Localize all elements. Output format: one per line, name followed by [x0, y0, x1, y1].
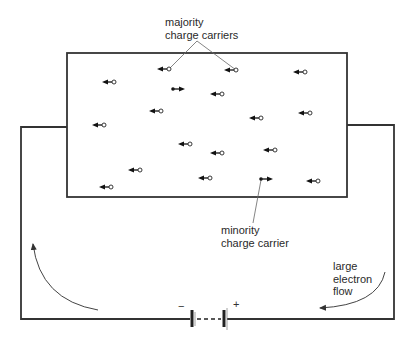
- majority-label-line1: majority: [165, 16, 238, 29]
- battery-positive-sign: +: [233, 298, 239, 310]
- minority-label-line2: charge carrier: [221, 237, 289, 250]
- semiconductor-block: [67, 53, 347, 197]
- flow-label-line1: large: [333, 260, 372, 273]
- minority-label-line1: minority: [221, 224, 289, 237]
- battery-negative-sign: −: [178, 300, 184, 312]
- flow-label-line3: flow: [333, 285, 372, 298]
- minority-carrier-label: minority charge carrier: [221, 224, 289, 249]
- majority-label-line2: charge carriers: [165, 29, 238, 42]
- majority-carriers-label: majority charge carriers: [165, 16, 238, 41]
- flow-arrow-left-icon: [33, 244, 98, 310]
- flow-label-line2: electron: [333, 273, 372, 286]
- electron-flow-label: large electron flow: [333, 260, 372, 298]
- battery-icon: [192, 308, 227, 330]
